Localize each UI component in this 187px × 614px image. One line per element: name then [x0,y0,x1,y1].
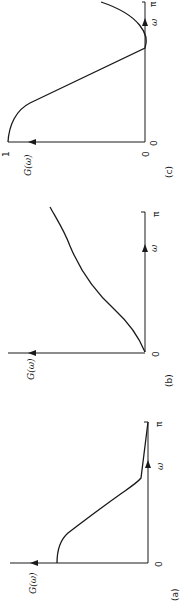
omega-origin-label: 0 [151,351,161,357]
omega-axis-arrow-icon [142,244,148,252]
g-origin-label: 0 [141,151,151,157]
panel-b: π ω 0 G(ω) (b) [8,207,174,387]
omega-label: ω [155,462,165,470]
panel-c: π ω 0 0 1 G(ω) (c) [1,1,174,178]
omega-origin-label: 0 [149,140,159,146]
panel-caption: (b) [164,374,174,387]
pi-label: π [151,211,161,217]
panel-caption: (a) [170,588,180,601]
pi-label: π [154,421,164,427]
g-axis-label: G(ω) [26,358,36,380]
g-max-label: 1 [1,151,11,157]
panel-a: π ω 0 G(ω) (a) [10,421,180,601]
omega-label: ω [149,244,159,252]
g-axis-label: G(ω) [23,154,33,176]
g-axis-arrow-icon [30,560,38,566]
g-axis-arrow-icon [28,350,36,356]
omega-label: ω [149,18,159,26]
response-curve [50,207,145,352]
response-curve [8,2,146,142]
pi-label: π [148,1,158,7]
response-curve [57,422,148,563]
g-axis-label: G(ω) [28,572,38,594]
omega-axis-arrow-icon [142,18,148,26]
omega-axis-arrow-icon [145,460,151,468]
panel-caption: (c) [164,166,174,178]
figure-canvas: π ω 0 0 1 G(ω) (c) π ω 0 G(ω) (b) π ω 0 … [0,0,187,614]
omega-origin-label: 0 [154,561,164,567]
g-axis-arrow-icon [28,139,36,145]
